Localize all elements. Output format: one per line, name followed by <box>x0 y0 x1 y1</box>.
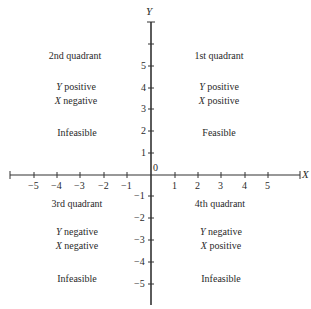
x-tick-label: 5 <box>265 180 270 191</box>
y-tick-label: 4 <box>141 82 146 93</box>
x-sign-label: X negative <box>56 240 98 251</box>
x-tick-label: 1 <box>172 180 177 191</box>
y-tick-label: 5 <box>141 60 146 71</box>
quadrant-title: 4th quadrant <box>195 198 245 209</box>
y-sign-label: Y positive <box>56 81 96 92</box>
x-tick-label: 2 <box>195 180 200 191</box>
feasibility-status: Infeasible <box>57 273 96 284</box>
quadrant-title: 1st quadrant <box>194 50 243 61</box>
x-tick-label: −2 <box>98 180 109 191</box>
x-tick-label: −1 <box>121 180 132 191</box>
origin-label: 0 <box>153 162 158 173</box>
y-tick-label: −1 <box>134 190 145 201</box>
feasibility-status: Feasible <box>202 127 235 138</box>
y-sign-label: Y positive <box>199 81 239 92</box>
y-tick-label: 1 <box>141 147 146 158</box>
y-tick-label: −5 <box>134 278 145 289</box>
x-tick-label: −4 <box>51 180 62 191</box>
x-tick-label: −5 <box>28 180 39 191</box>
y-axis-label: Y <box>146 5 152 17</box>
feasibility-status: Infeasible <box>57 127 96 138</box>
coordinate-plane <box>0 0 311 309</box>
x-sign-label: X negative <box>55 95 97 106</box>
x-axis-label: X <box>302 168 309 180</box>
y-sign-label: Y negative <box>200 226 242 237</box>
x-tick-label: 3 <box>218 180 223 191</box>
quadrant-title: 2nd quadrant <box>49 50 102 61</box>
x-sign-label: X positive <box>201 240 241 251</box>
y-tick-label: 2 <box>141 125 146 136</box>
y-tick-label: −4 <box>134 256 145 267</box>
y-tick-label: −3 <box>134 234 145 245</box>
y-tick-label: 3 <box>141 103 146 114</box>
quadrant-title: 3rd quadrant <box>52 198 103 209</box>
feasibility-status: Infeasible <box>201 273 240 284</box>
x-tick-label: 4 <box>242 180 247 191</box>
y-sign-label: Y negative <box>56 226 98 237</box>
x-tick-label: −3 <box>74 180 85 191</box>
y-tick-label: −2 <box>134 212 145 223</box>
x-sign-label: X positive <box>199 95 239 106</box>
